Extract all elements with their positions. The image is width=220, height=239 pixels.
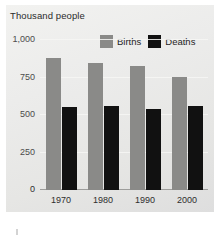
bar-chart-figure: Thousand people BirthsDeaths 02505007501…	[0, 0, 220, 239]
y-axis-tick-label: 500	[20, 109, 35, 119]
bar-births-1990	[130, 66, 145, 190]
bar-deaths-1980	[104, 106, 119, 190]
bar-births-1970	[46, 58, 61, 190]
y-axis-tick-label: 0	[30, 184, 35, 194]
y-axis-tick-label: 250	[20, 147, 35, 157]
bar-group: 1980	[82, 40, 124, 190]
bar-births-1980	[88, 63, 103, 191]
x-axis-tick-label: 1980	[82, 195, 124, 205]
bar-births-2000	[172, 77, 187, 190]
bar-deaths-2000	[188, 106, 203, 190]
x-axis-tick-label: 1970	[40, 195, 82, 205]
plot-area: 02505007501,000 1970198019902000	[40, 40, 208, 190]
y-axis-tick-label: 750	[20, 72, 35, 82]
y-axis-title: Thousand people	[10, 10, 85, 21]
bar-deaths-1990	[146, 109, 161, 190]
y-axis-tick-label: 1,000	[12, 34, 35, 44]
x-axis-tick-label: 1990	[124, 195, 166, 205]
bar-group: 2000	[166, 40, 208, 190]
x-axis-tick-label: 2000	[166, 195, 208, 205]
bar-group: 1990	[124, 40, 166, 190]
bars-layer: 1970198019902000	[40, 40, 208, 190]
bar-deaths-1970	[62, 107, 77, 190]
page-artifact-mark	[16, 229, 18, 235]
bar-group: 1970	[40, 40, 82, 190]
